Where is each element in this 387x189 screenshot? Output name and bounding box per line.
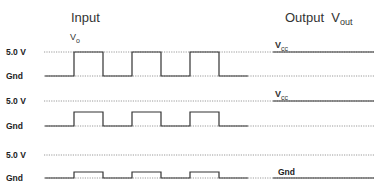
row-1-gnd-label: Gnd [6, 71, 23, 81]
row-2-gnd-label: Gnd [6, 121, 23, 131]
output-title: Output Vout [285, 10, 353, 27]
row-1-output-label: Vcc [275, 40, 289, 52]
row-3-gnd-label: Gnd [6, 173, 23, 183]
row-1-output-subscript: cc [281, 45, 289, 52]
row-2-output-subscript: cc [281, 94, 289, 101]
row-3-high-label: 5.0 V [6, 150, 26, 160]
row-1: 5.0 V Gnd Vcc [6, 40, 374, 81]
row-3-output-label: Gnd [278, 167, 295, 177]
input-signal-subscript: o [76, 37, 80, 44]
output-title-subscript: out [340, 17, 353, 27]
row-1-high-label: 5.0 V [6, 47, 26, 57]
row-2-output-label: Vcc [275, 89, 289, 101]
row-2-input-waveform [45, 112, 248, 126]
output-title-text: Output V [285, 10, 340, 25]
row-2-high-label: 5.0 V [6, 96, 26, 106]
input-signal-label: Vo [70, 32, 80, 44]
input-title: Input [71, 10, 100, 25]
row-1-input-waveform [45, 52, 248, 76]
row-3-input-waveform [45, 172, 248, 178]
row-3: 5.0 V Gnd Gnd [6, 150, 374, 183]
logic-level-diagram: Input Vo Output Vout 5.0 V Gnd Vcc 5.0 V… [0, 0, 387, 189]
row-2: 5.0 V Gnd Vcc [6, 89, 374, 131]
